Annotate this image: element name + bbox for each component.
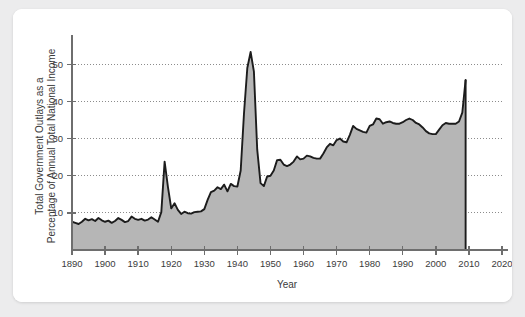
x-tick-label-1980: 1980: [359, 258, 380, 269]
x-tick-label-1920: 1920: [161, 258, 182, 269]
x-tick-label-1990: 1990: [392, 258, 413, 269]
x-tick-label-1960: 1960: [293, 258, 314, 269]
chart-figure: 1890190019101920193019401950196019701980…: [13, 9, 512, 302]
x-tick-label-1890: 1890: [61, 258, 82, 269]
x-tick-label-1910: 1910: [128, 258, 149, 269]
x-tick-label-1970: 1970: [326, 258, 347, 269]
chart-card: 1890190019101920193019401950196019701980…: [13, 9, 512, 302]
x-tick-label-1940: 1940: [227, 258, 248, 269]
x-tick-label-1900: 1900: [95, 258, 116, 269]
x-tick-label-1950: 1950: [260, 258, 281, 269]
x-axis-title: Year: [277, 279, 298, 290]
x-tick-label-2020: 2020: [491, 258, 512, 269]
x-tick-label-2010: 2010: [458, 258, 479, 269]
y-axis-title-line-2: Percentage of Annual Total National Inco…: [46, 48, 57, 243]
y-axis-title-line-1: Total Government Outlays as a: [34, 77, 45, 215]
government-outlays-area-chart: 1890190019101920193019401950196019701980…: [13, 9, 512, 302]
x-tick-label-1930: 1930: [194, 258, 215, 269]
x-tick-label-2000: 2000: [425, 258, 446, 269]
